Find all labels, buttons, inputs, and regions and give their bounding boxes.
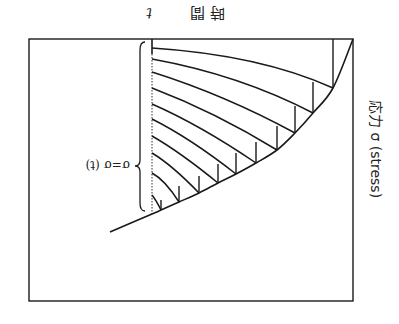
hatch-curve xyxy=(152,72,295,133)
hatch-curves xyxy=(152,48,333,210)
hatch-curve xyxy=(152,153,199,193)
stress-curve xyxy=(110,39,353,232)
hatch-curve xyxy=(152,173,179,202)
function-label: σ=σ (t) xyxy=(86,158,130,172)
hatch-curve xyxy=(152,195,161,210)
stress-time-diagram: 時 間 t σ=σ (t) 応力 σ (stress) xyxy=(0,0,399,324)
hatch-curve xyxy=(152,88,277,150)
vertical-hatch-lines xyxy=(161,39,333,210)
hatch-curve xyxy=(152,59,313,113)
plot-frame xyxy=(29,39,353,301)
hatch-curve xyxy=(152,104,256,163)
curly-brace xyxy=(135,42,145,211)
time-axis-label-kanji: 時 間 xyxy=(190,4,225,22)
time-axis-symbol: t xyxy=(146,5,152,21)
hatch-curve xyxy=(152,119,236,174)
stress-axis-label: 応力 σ (stress) xyxy=(368,100,384,198)
